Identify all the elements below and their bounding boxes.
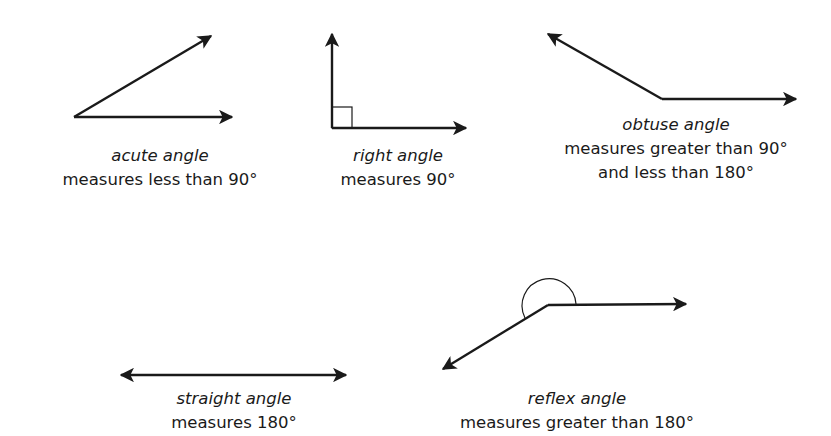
- straight-angle-description: measures 180°: [171, 411, 297, 435]
- right-angle-figure: [332, 34, 466, 128]
- reflex-angle-description: measures greater than 180°: [460, 411, 694, 435]
- reflex-angle-arc-marker: [522, 279, 576, 318]
- obtuse-angle-description-line2: and less than 180°: [564, 161, 788, 185]
- right-angle-label: right angle: [340, 144, 455, 168]
- obtuse-angle-caption: obtuse angle measures greater than 90° a…: [564, 113, 788, 185]
- obtuse-angle-description-line1: measures greater than 90°: [564, 137, 788, 161]
- right-angle-caption: right angle measures 90°: [340, 144, 455, 192]
- right-angle-square-marker: [332, 107, 352, 128]
- reflex-ray-lower-left: [443, 305, 548, 369]
- right-angle-description: measures 90°: [340, 168, 455, 192]
- acute-angle-description: measures less than 90°: [63, 168, 258, 192]
- acute-ray-upper: [74, 36, 211, 117]
- obtuse-angle-label: obtuse angle: [564, 113, 788, 137]
- acute-angle-label: acute angle: [63, 144, 258, 168]
- reflex-angle-figure: [443, 279, 686, 369]
- reflex-ray-horizontal: [548, 304, 686, 305]
- reflex-angle-label: reflex angle: [460, 387, 694, 411]
- straight-angle-label: straight angle: [171, 387, 297, 411]
- acute-angle-figure: [74, 36, 232, 117]
- obtuse-ray-upper-left: [548, 34, 662, 99]
- reflex-angle-caption: reflex angle measures greater than 180°: [460, 387, 694, 435]
- straight-angle-caption: straight angle measures 180°: [171, 387, 297, 435]
- obtuse-angle-figure: [548, 34, 796, 99]
- acute-angle-caption: acute angle measures less than 90°: [63, 144, 258, 192]
- angle-types-diagram: [0, 0, 831, 436]
